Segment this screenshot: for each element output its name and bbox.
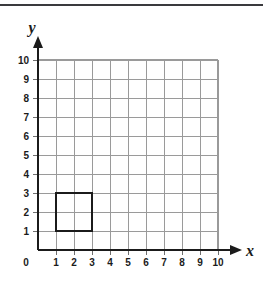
grid-lines: [38, 60, 218, 250]
y-tick-label: 6: [23, 131, 29, 142]
x-axis-arrowhead: [230, 245, 242, 255]
x-tick-label: 4: [107, 257, 113, 268]
x-tick-label: 10: [212, 257, 224, 268]
x-tick-label: 6: [143, 257, 149, 268]
tick-marks: [33, 60, 218, 255]
x-tick-label: 1: [53, 257, 59, 268]
coordinate-plane: y x 0 12345678910 12345678910: [0, 0, 263, 281]
x-tick-label: 8: [179, 257, 185, 268]
y-tick-label: 9: [23, 74, 29, 85]
y-axis-arrowhead: [33, 36, 43, 48]
x-tick-label: 2: [71, 257, 77, 268]
x-tick-label: 9: [197, 257, 203, 268]
y-tick-label: 4: [23, 169, 29, 180]
origin-tick-label: 0: [23, 257, 29, 268]
y-tick-label: 5: [23, 150, 29, 161]
y-tick-label: 1: [23, 226, 29, 237]
y-tick-label: 8: [23, 93, 29, 104]
x-tick-label: 3: [89, 257, 95, 268]
y-tick-label: 10: [18, 55, 30, 66]
coordinate-grid-figure: y x 0 12345678910 12345678910: [0, 0, 263, 281]
x-tick-label: 5: [125, 257, 131, 268]
y-tick-label: 2: [23, 207, 29, 218]
y-tick-label: 3: [23, 188, 29, 199]
y-axis-label: y: [26, 19, 36, 37]
x-tick-label: 7: [161, 257, 167, 268]
y-tick-label: 7: [23, 112, 29, 123]
x-tick-labels: 12345678910: [53, 257, 224, 268]
y-tick-labels: 12345678910: [18, 55, 30, 237]
x-axis-label: x: [245, 242, 254, 259]
